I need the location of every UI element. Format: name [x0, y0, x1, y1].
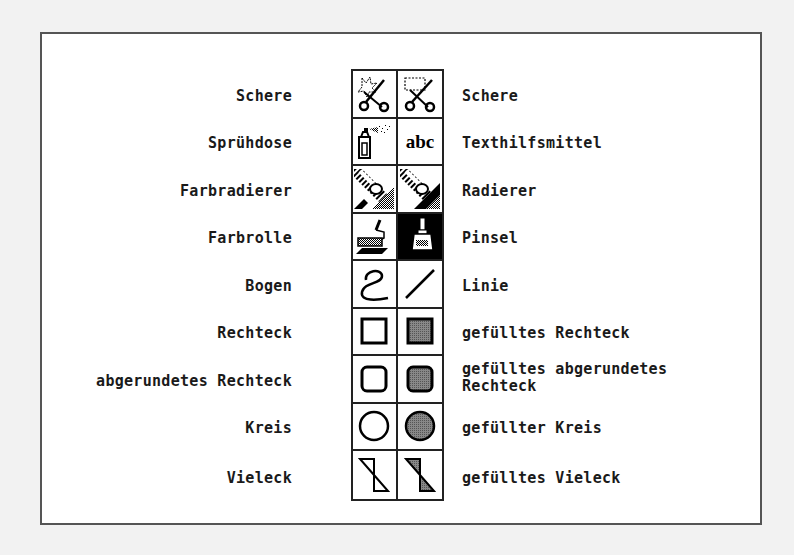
label-left-curve: Bogen — [245, 278, 292, 295]
toolbox-legend-frame: Schere Sprühdose Farbradierer Farbrolle … — [40, 32, 762, 525]
rect-select-scissors-icon — [400, 74, 440, 114]
tool-circle[interactable] — [353, 404, 398, 450]
label-left-spray: Sprühdose — [208, 135, 292, 152]
label-right-eraser: Radierer — [462, 183, 537, 200]
tool-filled-rounded-rectangle[interactable] — [398, 356, 443, 402]
tool-row — [353, 451, 442, 499]
filled-rounded-rectangle-icon — [400, 359, 440, 399]
tool-row — [353, 71, 442, 119]
label-right-text: Texthilfsmittel — [462, 135, 602, 152]
tool-rectangle[interactable] — [353, 309, 398, 355]
label-left-color-eraser: Farbradierer — [180, 183, 292, 200]
tool-row — [353, 356, 442, 404]
label-right-filled-polygon: gefülltes Vieleck — [462, 470, 621, 487]
tool-filled-polygon[interactable] — [398, 451, 443, 499]
tool-text[interactable]: abc — [398, 119, 443, 165]
tool-polygon[interactable] — [353, 451, 398, 499]
label-left-roller: Farbrolle — [208, 230, 292, 247]
tool-color-eraser[interactable] — [353, 166, 398, 212]
paint-roller-icon — [354, 216, 394, 256]
tool-lasso-scissors[interactable] — [353, 71, 398, 117]
label-left-polygon: Vieleck — [227, 470, 292, 487]
eraser-icon — [400, 169, 440, 209]
spray-can-icon — [354, 121, 394, 161]
label-left-circle: Kreis — [245, 420, 292, 437]
label-right-brush: Pinsel — [462, 230, 518, 247]
filled-rectangle-icon — [400, 311, 440, 351]
tool-curve[interactable] — [353, 261, 398, 307]
tool-filled-circle[interactable] — [398, 404, 443, 450]
curve-icon — [354, 264, 394, 304]
rectangle-icon — [354, 311, 394, 351]
tool-row — [353, 309, 442, 357]
tool-row — [353, 261, 442, 309]
line-icon — [400, 264, 440, 304]
paintbrush-icon — [400, 216, 440, 256]
tool-rect-scissors[interactable] — [398, 71, 443, 117]
tool-palette: abc — [351, 69, 444, 501]
polygon-icon — [354, 455, 394, 495]
label-right-filled-circle: gefüllter Kreis — [462, 420, 602, 437]
tool-spray-can[interactable] — [353, 119, 398, 165]
tool-row — [353, 404, 442, 452]
tool-row — [353, 214, 442, 262]
svg-text:abc: abc — [406, 131, 435, 152]
label-left-scissors: Schere — [236, 88, 292, 105]
label-right-filled-rectangle: gefülltes Rechteck — [462, 325, 630, 342]
tool-filled-rectangle[interactable] — [398, 309, 443, 355]
filled-circle-icon — [400, 406, 440, 446]
tool-row: abc — [353, 119, 442, 167]
tool-eraser[interactable] — [398, 166, 443, 212]
label-right-scissors: Schere — [462, 88, 518, 105]
tool-line[interactable] — [398, 261, 443, 307]
circle-icon — [354, 406, 394, 446]
tool-paintbrush[interactable] — [398, 214, 443, 260]
tool-rounded-rectangle[interactable] — [353, 356, 398, 402]
text-abc-icon: abc — [400, 121, 440, 161]
label-right-line: Linie — [462, 278, 509, 295]
label-left-rectangle: Rechteck — [217, 325, 292, 342]
rounded-rectangle-icon — [354, 359, 394, 399]
tool-row — [353, 166, 442, 214]
label-right-filled-rounded-rectangle: gefülltes abgerundetes Rechteck — [462, 361, 732, 395]
color-eraser-icon — [354, 169, 394, 209]
tool-paint-roller[interactable] — [353, 214, 398, 260]
lasso-scissors-icon — [354, 74, 394, 114]
filled-polygon-icon — [400, 455, 440, 495]
label-left-rounded-rectangle: abgerundetes Rechteck — [96, 373, 292, 390]
